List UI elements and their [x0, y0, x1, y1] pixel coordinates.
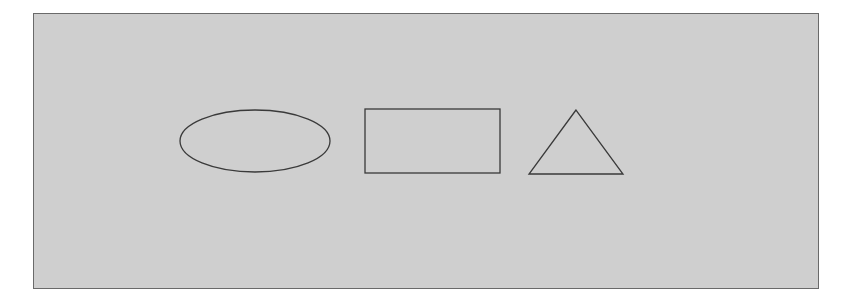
- triangle-shape: [529, 110, 623, 174]
- ellipse-shape: [180, 110, 330, 172]
- shapes-canvas: [0, 0, 859, 304]
- rectangle-shape: [365, 109, 500, 173]
